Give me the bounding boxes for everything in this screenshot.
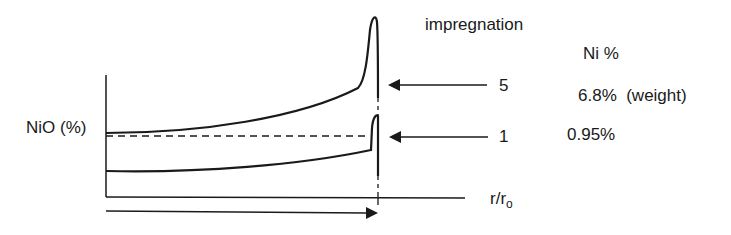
x-axis bbox=[106, 197, 465, 198]
pointer-arrow-5-head bbox=[388, 79, 400, 91]
ni-value-1: 0.95% bbox=[567, 125, 615, 145]
direction-arrow-head bbox=[366, 207, 378, 219]
x-axis-label-text: r/r bbox=[490, 189, 506, 208]
pointer-arrow-1-head bbox=[389, 131, 401, 143]
ni-value-5-note: (weight) bbox=[626, 86, 686, 105]
ni-percent-header: Ni % bbox=[583, 44, 619, 64]
ni-value-5-percent: 6.8% bbox=[578, 86, 617, 105]
profile-curve-1 bbox=[106, 115, 378, 176]
concentration-profile-plot bbox=[0, 0, 731, 235]
y-axis-label: NiO (%) bbox=[26, 118, 86, 138]
impregnation-value-5: 5 bbox=[499, 76, 508, 96]
profile-curve-5 bbox=[106, 17, 378, 133]
impregnation-value-1: 1 bbox=[499, 127, 508, 147]
ni-value-5: 6.8% (weight) bbox=[578, 86, 687, 106]
impregnation-header: impregnation bbox=[425, 15, 523, 35]
x-axis-label: r/ro bbox=[490, 189, 513, 211]
direction-arrow-shaft bbox=[106, 211, 366, 213]
x-axis-label-subscript: o bbox=[506, 197, 513, 211]
